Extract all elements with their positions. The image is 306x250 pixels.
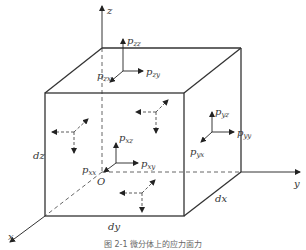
p-yy-right-label: pyy [237, 127, 252, 140]
hidden-face-stresses [52, 100, 168, 212]
p-zx-top-label: pzx [97, 70, 111, 83]
z-axis-label: z [106, 5, 113, 16]
stress-cube-diagram: z y x O dz dy dx pzz pzy pzx pxz pxy pxx… [0, 0, 306, 250]
p-xz-front-label: pxz [119, 132, 133, 145]
x-axis-label: x [8, 231, 14, 242]
dz-label: dz [33, 150, 45, 161]
origin-label: O [97, 176, 105, 187]
x-axis [10, 216, 45, 242]
p-yz-right-label: pyz [215, 106, 229, 119]
p-xx-front-label: pxx [82, 164, 96, 177]
p-zy-top-label: pzy [146, 66, 161, 79]
figure-caption: 图 2-1 微分体上的应力面力 [104, 239, 202, 249]
front-face-stresses [104, 143, 138, 172]
axes [10, 6, 300, 242]
dx-label: dx [215, 193, 227, 204]
y-axis-label: y [293, 178, 300, 189]
p-yx-right-label: pyx [190, 146, 204, 159]
p-zz-top-label: pzz [127, 35, 141, 48]
dy-label: dy [108, 221, 120, 232]
p-xy-front-label: pxy [141, 158, 156, 171]
front-face [45, 93, 184, 216]
